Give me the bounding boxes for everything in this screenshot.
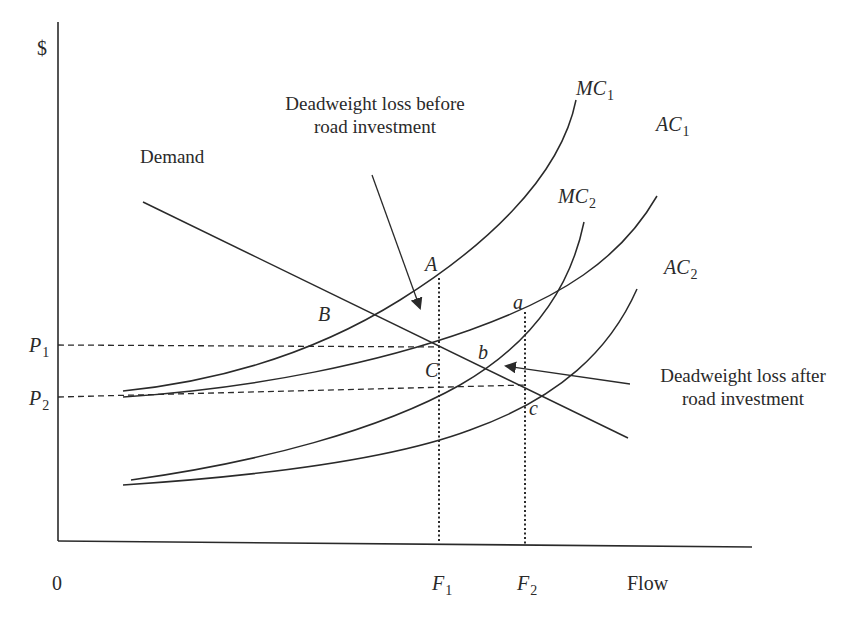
point-a-label: a bbox=[513, 292, 523, 312]
annotation-before-line1: Deadweight loss before bbox=[255, 92, 495, 115]
demand-curve bbox=[143, 202, 628, 438]
p1-dashed-line bbox=[58, 345, 440, 347]
p2-label: P2 bbox=[29, 388, 49, 408]
f2-label: F2 bbox=[517, 573, 537, 593]
ac1-label: AC1 bbox=[656, 114, 690, 134]
annotation-after: Deadweight loss after road investment bbox=[633, 364, 853, 410]
point-c-label: c bbox=[529, 398, 538, 418]
arrow-before bbox=[372, 175, 420, 308]
annotation-after-line1: Deadweight loss after bbox=[633, 364, 853, 387]
demand-label: Demand bbox=[140, 147, 204, 166]
origin-label: 0 bbox=[52, 573, 62, 593]
y-axis-label: $ bbox=[37, 38, 47, 58]
f1-label: F1 bbox=[432, 573, 452, 593]
x-axis bbox=[58, 541, 752, 547]
mc1-curve bbox=[123, 100, 576, 391]
annotation-before-line2: road investment bbox=[255, 115, 495, 138]
mc2-curve bbox=[131, 222, 584, 480]
annotation-after-line2: road investment bbox=[633, 387, 853, 410]
mc2-label: MC2 bbox=[558, 186, 596, 206]
annotation-before: Deadweight loss before road investment bbox=[255, 92, 495, 138]
point-B-label: B bbox=[318, 304, 330, 324]
ac2-label: AC2 bbox=[664, 257, 698, 277]
point-A-label: A bbox=[425, 254, 437, 274]
p1-label: P1 bbox=[29, 335, 49, 355]
point-b-label: b bbox=[478, 342, 488, 362]
point-C-label: C bbox=[425, 360, 438, 380]
x-axis-label: Flow bbox=[627, 573, 668, 593]
ac2-curve bbox=[123, 289, 637, 485]
mc1-label: MC1 bbox=[576, 78, 614, 98]
